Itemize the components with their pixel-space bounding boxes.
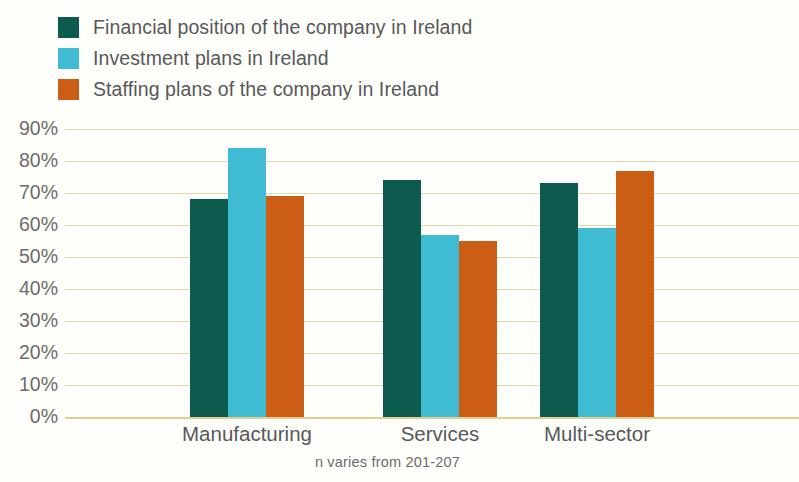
y-axis-tick-label-60: 60% xyxy=(0,215,58,235)
y-axis-tick-label-90: 90% xyxy=(0,119,58,139)
legend-label-staffing-plans: Staffing plans of the company in Ireland xyxy=(93,80,439,100)
y-axis-tick-label-80: 80% xyxy=(0,151,58,171)
gridline-0 xyxy=(65,417,799,419)
bar-manufacturing-series-2 xyxy=(266,196,304,417)
chart-legend: Financial position of the company in Ire… xyxy=(58,12,618,105)
legend-item-staffing-plans: Staffing plans of the company in Ireland xyxy=(58,74,618,105)
grouped-bar-chart: Financial position of the company in Ire… xyxy=(0,0,799,482)
y-axis-tick-label-20: 20% xyxy=(0,343,58,363)
chart-footnote-text: n varies from 201-207 xyxy=(315,454,460,470)
legend-label-investment-plans: Investment plans in Ireland xyxy=(93,49,329,69)
y-axis-labels: 90%80%70%60%50%40%30%20%10%0% xyxy=(0,129,58,417)
legend-label-financial-position: Financial position of the company in Ire… xyxy=(93,18,472,38)
x-axis-label-services: Services xyxy=(401,424,480,445)
chart-footnote: n varies from 201-207 xyxy=(0,454,799,470)
y-axis-tick-label-40: 40% xyxy=(0,279,58,299)
bar-services-series-0 xyxy=(383,180,421,417)
x-axis-label-manufacturing: Manufacturing xyxy=(182,424,312,445)
y-axis-tick-label-0: 0% xyxy=(0,407,58,427)
bar-manufacturing-series-1 xyxy=(228,148,266,417)
bar-multi-sector-series-1 xyxy=(578,228,616,417)
legend-swatch-icon-staffing-plans xyxy=(58,79,79,100)
y-axis-tick-label-10: 10% xyxy=(0,375,58,395)
legend-item-investment-plans: Investment plans in Ireland xyxy=(58,43,618,74)
y-axis-tick-label-70: 70% xyxy=(0,183,58,203)
y-axis-tick-label-30: 30% xyxy=(0,311,58,331)
bars-layer xyxy=(65,129,799,417)
x-axis-label-multi-sector: Multi-sector xyxy=(544,424,650,445)
bar-services-series-1 xyxy=(421,235,459,417)
y-axis-tick-label-50: 50% xyxy=(0,247,58,267)
legend-swatch-icon-financial-position xyxy=(58,17,79,38)
bar-services-series-2 xyxy=(459,241,497,417)
bar-multi-sector-series-2 xyxy=(616,171,654,417)
bar-manufacturing-series-0 xyxy=(190,199,228,417)
legend-item-financial-position: Financial position of the company in Ire… xyxy=(58,12,618,43)
bar-multi-sector-series-0 xyxy=(540,183,578,417)
x-axis-category-labels: ManufacturingServicesMulti-sector xyxy=(65,424,799,454)
legend-swatch-icon-investment-plans xyxy=(58,48,79,69)
